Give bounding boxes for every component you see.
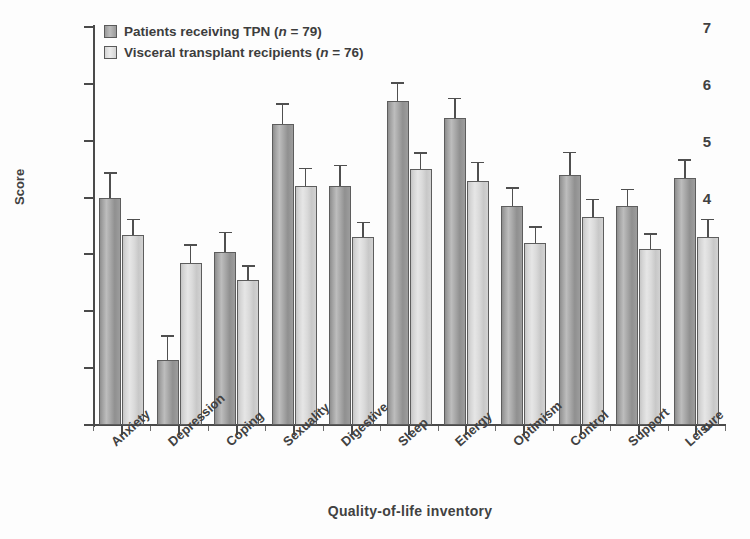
bar-digestive-series2	[352, 237, 374, 425]
bar-sexuality-series1	[272, 124, 294, 425]
y-axis-tick	[84, 83, 93, 85]
error-bar-stem	[684, 161, 686, 178]
legend-item-tpn: Patients receiving TPN (n = 79)	[104, 22, 364, 41]
y-axis-title: Score	[12, 169, 27, 205]
bar-sexuality-series2	[295, 186, 317, 425]
bar-sleep-series1	[387, 101, 409, 425]
y-axis-tick	[84, 197, 93, 199]
error-bar-stem	[512, 189, 514, 206]
error-bar-cap	[586, 199, 599, 201]
error-bar-stem	[109, 174, 111, 198]
error-bar-stem	[339, 166, 341, 186]
error-bar-stem	[362, 223, 364, 237]
error-bar-cap	[184, 244, 197, 246]
error-bar-cap	[127, 219, 140, 221]
x-axis-minor-tick	[323, 426, 324, 431]
y-axis-tick	[84, 367, 93, 369]
error-bar-cap	[506, 187, 519, 189]
error-bar-cap	[414, 152, 427, 154]
error-bar-stem	[190, 246, 192, 263]
error-bar-stem	[627, 190, 629, 206]
error-bar-cap	[334, 165, 347, 167]
y-axis-tick-label: 5	[681, 132, 711, 149]
bar-depression-series2	[180, 263, 202, 425]
error-bar-cap	[391, 82, 404, 84]
error-bar-stem	[305, 169, 307, 186]
error-bar-stem	[224, 233, 226, 251]
error-bar-cap	[529, 226, 542, 228]
error-bar-cap	[471, 162, 484, 164]
y-axis-tick-label: 6	[681, 75, 711, 92]
error-bar-stem	[569, 153, 571, 175]
bar-anxiety-series2	[122, 235, 144, 425]
error-bar-stem	[132, 220, 134, 234]
error-bar-cap	[219, 232, 232, 234]
bar-sleep-series2	[410, 169, 432, 425]
error-bar-stem	[477, 163, 479, 180]
error-bar-cap	[701, 219, 714, 221]
error-bar-cap	[242, 265, 255, 267]
x-axis-minor-tick	[610, 426, 611, 431]
error-bar-cap	[678, 159, 691, 161]
bar-support-series2	[639, 249, 661, 425]
error-bar-stem	[592, 200, 594, 217]
bar-digestive-series1	[329, 186, 351, 425]
legend-swatch-light-icon	[104, 46, 117, 59]
error-bar-stem	[282, 105, 284, 124]
error-bar-stem	[650, 235, 652, 249]
x-axis-minor-tick	[150, 426, 151, 431]
bar-leisure-series1	[674, 178, 696, 425]
error-bar-stem	[454, 99, 456, 118]
error-bar-stem	[707, 220, 709, 237]
error-bar-stem	[420, 154, 422, 169]
error-bar-cap	[161, 335, 174, 337]
x-axis-minor-tick	[495, 426, 496, 431]
legend-item-transplant: Visceral transplant recipients (n = 76)	[104, 43, 364, 62]
x-axis-minor-tick	[93, 426, 94, 431]
bar-control-series1	[559, 175, 581, 425]
bar-optimism-series1	[501, 206, 523, 425]
x-axis-minor-tick	[725, 426, 726, 431]
x-axis-minor-tick	[380, 426, 381, 431]
x-axis-minor-tick	[553, 426, 554, 431]
error-bar-cap	[448, 98, 461, 100]
chart-figure: Score 01234567 Quality-of-life inventory…	[0, 0, 750, 539]
x-axis-minor-tick	[668, 426, 669, 431]
error-bar-stem	[397, 84, 399, 101]
error-bar-cap	[357, 222, 370, 224]
legend-label-transplant: Visceral transplant recipients (n = 76)	[124, 45, 364, 60]
legend-label-tpn: Patients receiving TPN (n = 79)	[124, 24, 322, 39]
x-axis-minor-tick	[438, 426, 439, 431]
bar-support-series1	[616, 206, 638, 425]
error-bar-stem	[167, 337, 169, 360]
bar-depression-series1	[157, 360, 179, 425]
y-axis-tick-label: 7	[681, 19, 711, 36]
legend-swatch-dark-icon	[104, 25, 117, 38]
error-bar-cap	[563, 152, 576, 154]
x-axis-minor-tick	[265, 426, 266, 431]
x-axis-minor-tick	[208, 426, 209, 431]
x-axis-title: Quality-of-life inventory	[0, 503, 750, 519]
bar-optimism-series2	[524, 243, 546, 425]
error-bar-cap	[104, 172, 117, 174]
bar-energy-series2	[467, 181, 489, 425]
y-axis-tick	[84, 310, 93, 312]
y-axis-tick	[84, 26, 93, 28]
y-axis-tick	[84, 424, 93, 426]
bar-energy-series1	[444, 118, 466, 425]
error-bar-cap	[621, 189, 634, 191]
error-bar-cap	[644, 233, 657, 235]
error-bar-cap	[276, 103, 289, 105]
error-bar-stem	[535, 228, 537, 243]
error-bar-cap	[299, 168, 312, 170]
y-axis-tick	[84, 140, 93, 142]
y-axis-tick	[84, 253, 93, 255]
plot-area: 01234567	[93, 27, 725, 425]
bar-leisure-series2	[697, 237, 719, 425]
error-bar-stem	[247, 267, 249, 280]
chart-legend: Patients receiving TPN (n = 79) Visceral…	[104, 22, 364, 64]
bar-coping-series2	[237, 280, 259, 425]
bar-control-series2	[582, 217, 604, 425]
bar-anxiety-series1	[99, 198, 121, 425]
